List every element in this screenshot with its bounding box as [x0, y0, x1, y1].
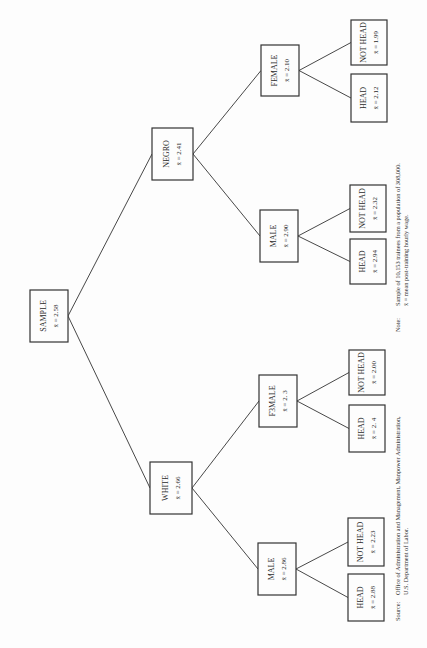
edge-white-female-to-wf-nothead [297, 373, 349, 402]
node-label: HEAD [357, 417, 366, 439]
node-box [30, 290, 68, 342]
edge-negro-male-to-nm-nothead [298, 209, 350, 237]
node-label: NEGRO [162, 140, 171, 168]
source-line-2: U.S. Department of Labor. [402, 527, 409, 595]
node-value: x̄ = 2.12 [372, 86, 380, 110]
node-label: NOT HEAD [359, 22, 368, 63]
node-box [259, 375, 297, 427]
node-value: x̄ = 2.10 [283, 58, 291, 82]
edge-negro-female-to-nf-nothead [299, 43, 351, 71]
note-line-2: x̄ = mean post-training hourly wage. [402, 214, 409, 306]
node-value: x̄ = 2.94 [371, 249, 379, 273]
node-value: x̄ = 2.00 [370, 360, 378, 384]
node-nf-nothead: NOT HEADx̄ = 1.99 [351, 20, 387, 65]
edge-sample-to-white [68, 316, 150, 488]
node-label: F3MALE [268, 385, 277, 416]
node-label: NOT HEAD [356, 522, 365, 563]
edge-sample-to-negro [68, 154, 152, 316]
node-label: HEAD [356, 586, 365, 608]
node-value: x̄ = 2.86 [280, 557, 288, 581]
node-negro-male: MALEx̄ = 2.90 [260, 210, 298, 262]
node-negro: NEGROx̄ = 2.41 [152, 128, 193, 180]
edge-negro-to-negro-male [193, 154, 260, 236]
node-sample: SAMPLEx̄ = 2.58 [30, 290, 68, 342]
node-box [350, 239, 386, 284]
node-label: MALE [269, 225, 278, 248]
node-value: x̄ = 2.32 [371, 196, 379, 220]
node-box [349, 405, 385, 452]
tree-diagram: SAMPLEx̄ = 2.58NEGROx̄ = 2.41WHITEx̄ = 2… [0, 0, 427, 648]
node-value: x̄ = 2.66 [174, 476, 182, 500]
node-box [350, 185, 386, 232]
node-wf-head: HEADx̄ = 2. 4 [349, 405, 385, 452]
edge-white-female-to-wf-head [297, 401, 349, 429]
node-value: x̄ = 2.41 [175, 142, 183, 166]
node-wm-nothead: NOT HEADx̄ = 2.23 [348, 518, 384, 566]
node-value: x̄ = 1.99 [372, 30, 380, 54]
source-line-1: Office of Administration and Management,… [394, 416, 401, 595]
node-value: x̄ = 2. 4 [370, 417, 378, 439]
node-box [351, 20, 387, 65]
edge-negro-female-to-nf-head [299, 71, 351, 99]
node-nm-nothead: NOT HEADx̄ = 2.32 [350, 185, 386, 232]
node-box [152, 128, 193, 180]
node-value: x̄ = 2.88 [369, 585, 377, 609]
edge-white-to-white-male [192, 488, 258, 569]
node-label: SAMPLE [39, 300, 48, 332]
node-label: MALE [267, 558, 276, 581]
node-label: HEAD [358, 250, 367, 272]
node-box [258, 543, 296, 595]
node-value: x̄ = 2.58 [52, 304, 60, 328]
note-block: Note: Sample of 10,153 trainees from a p… [394, 163, 409, 332]
node-nm-head: HEADx̄ = 2.94 [350, 239, 386, 284]
node-label: FEMALE [270, 54, 279, 86]
node-box [351, 74, 387, 122]
node-white-female: F3MALEx̄ = 2. 3 [259, 375, 297, 427]
node-box [348, 518, 384, 566]
node-value: x̄ = 2.23 [369, 530, 377, 554]
source-label: Source: [394, 602, 401, 621]
node-nf-head: HEADx̄ = 2.12 [351, 74, 387, 122]
node-white: WHITEx̄ = 2.66 [150, 462, 192, 514]
node-value: x̄ = 2. 3 [281, 390, 289, 412]
edge-white-to-white-female [192, 401, 259, 488]
node-box [150, 462, 192, 514]
node-negro-female: FEMALEx̄ = 2.10 [261, 45, 299, 96]
note-line-1: Sample of 10,153 trainees from a populat… [394, 163, 401, 306]
node-label: NOT HEAD [357, 352, 366, 393]
node-label: NOT HEAD [358, 188, 367, 229]
node-label: HEAD [359, 87, 368, 109]
node-value: x̄ = 2.90 [282, 224, 290, 248]
edge-white-male-to-wm-head [296, 569, 348, 598]
node-wm-head: HEADx̄ = 2.88 [348, 574, 384, 621]
note-label: Note: [394, 318, 401, 332]
tree-nodes: SAMPLEx̄ = 2.58NEGROx̄ = 2.41WHITEx̄ = 2… [30, 20, 387, 621]
node-box [260, 210, 298, 262]
source-block: Source: Office of Administration and Man… [394, 416, 409, 621]
node-label: WHITE [161, 475, 170, 501]
node-wf-nothead: NOT HEADx̄ = 2.00 [349, 350, 385, 395]
edge-negro-to-negro-female [193, 71, 261, 155]
node-box [348, 574, 384, 621]
edge-negro-male-to-nm-head [298, 236, 350, 262]
node-box [261, 45, 299, 96]
edge-white-male-to-wm-nothead [296, 542, 348, 569]
node-box [349, 350, 385, 395]
node-white-male: MALEx̄ = 2.86 [258, 543, 296, 595]
tree-edges [68, 43, 351, 598]
